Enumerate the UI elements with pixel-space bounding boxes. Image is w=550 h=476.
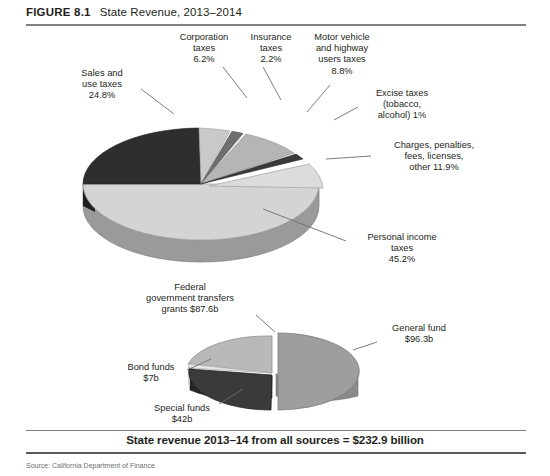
- leader-personal-income-taxes: [262, 208, 348, 244]
- source-line: Source: California Department of Finance: [26, 462, 526, 474]
- callout-general-fund: General fund $96.3b: [378, 323, 460, 345]
- figure-number: FIGURE 8.1: [26, 6, 91, 18]
- callout-motor-vehicle-taxes: Motor vehicle and highway users taxes 8.…: [300, 32, 384, 77]
- leader-charges-penalties: [325, 150, 373, 160]
- leader-general-fund: [352, 340, 378, 352]
- callout-charges-penalties: Charges, penalties, fees, licenses, othe…: [370, 140, 498, 174]
- figure-root: FIGURE 8.1 State Revenue, 2013–2014: [0, 0, 550, 476]
- callout-federal-government-transfers: Federal government transfers grants $87.…: [120, 282, 260, 316]
- callout-corporation-taxes: Corporation taxes 6.2%: [168, 32, 240, 66]
- callout-sales-and-use-taxes: Sales and use taxes 24.8%: [63, 68, 141, 102]
- caption-divider-bottom: [26, 452, 526, 454]
- leader-bond-funds: [186, 358, 212, 372]
- header-divider: [26, 24, 526, 26]
- total-revenue-caption: State revenue 2013–14 from all sources =…: [0, 433, 550, 446]
- callout-special-funds: Special funds $42b: [138, 403, 226, 425]
- bottom-pie-slices: [188, 333, 359, 410]
- leader-sales-and-use-taxes: [140, 88, 176, 116]
- leader-motor-vehicle-taxes: [306, 84, 332, 114]
- callout-insurance-taxes: Insurance taxes 2.2%: [240, 32, 302, 66]
- slice-sales-and-use-taxes: [83, 128, 201, 184]
- callout-excise-taxes: Excise taxes (tobacco, alcohol) 1%: [357, 88, 447, 122]
- caption-divider-top: [26, 430, 526, 431]
- leader-federal-government-transfers: [255, 314, 277, 334]
- callout-personal-income-taxes: Personal income taxes 45.2%: [350, 232, 454, 266]
- figure-header: FIGURE 8.1 State Revenue, 2013–2014: [26, 6, 242, 18]
- leader-corporation-taxes: [222, 66, 250, 100]
- leader-insurance-taxes: [262, 66, 284, 102]
- leader-excise-taxes: [333, 106, 359, 122]
- figure-title: State Revenue, 2013–2014: [100, 6, 242, 18]
- callout-bond-funds: Bond funds $7b: [116, 362, 186, 384]
- leader-special-funds: [218, 388, 244, 406]
